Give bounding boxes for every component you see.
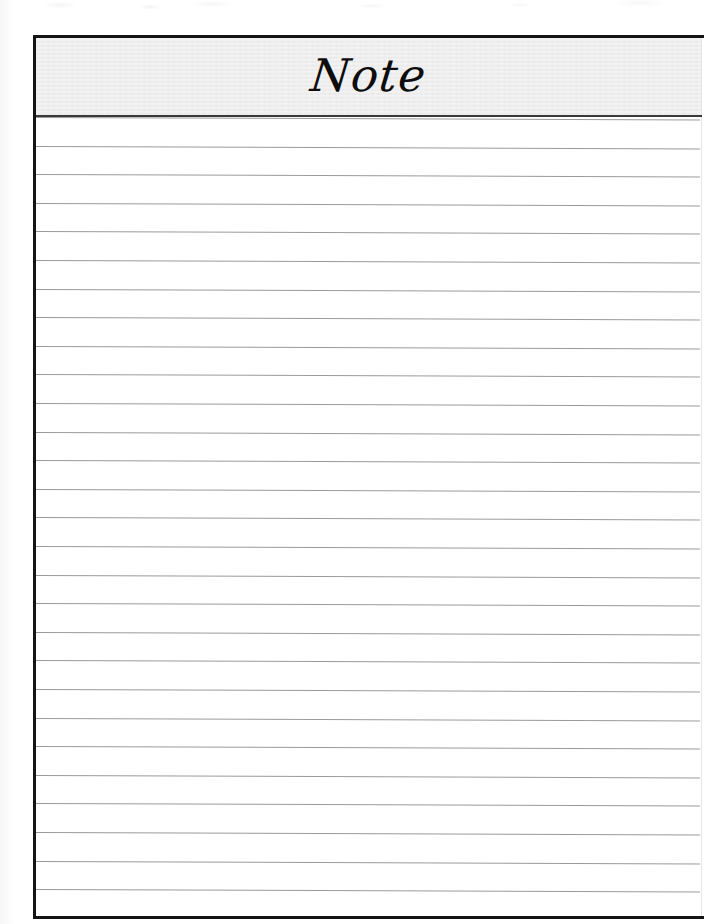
rule-line[interactable] (36, 689, 700, 693)
rule-line[interactable] (36, 861, 700, 865)
rule-line[interactable] (36, 889, 700, 893)
rule-line[interactable] (36, 231, 700, 235)
page-edge-shadow (0, 0, 14, 924)
rule-line[interactable] (36, 403, 700, 407)
rule-line[interactable] (36, 317, 700, 321)
rule-line[interactable] (36, 174, 700, 178)
rule-line[interactable] (36, 746, 700, 750)
scan-artifact-overlay (0, 0, 705, 36)
rule-line[interactable] (36, 374, 700, 378)
rule-line[interactable] (36, 203, 700, 207)
rule-line[interactable] (36, 575, 700, 579)
rule-line[interactable] (36, 260, 700, 264)
rule-line[interactable] (36, 632, 700, 636)
rule-line[interactable] (36, 346, 700, 350)
rule-line[interactable] (36, 289, 700, 293)
rule-line[interactable] (36, 775, 700, 779)
rule-line[interactable] (36, 117, 700, 121)
sheet-bottom-border (33, 916, 704, 919)
rule-line[interactable] (36, 603, 700, 607)
rule-line[interactable] (36, 460, 700, 464)
ruled-lines-area[interactable] (36, 117, 701, 917)
note-page: Note (0, 0, 705, 924)
rule-line[interactable] (36, 517, 700, 521)
rule-line[interactable] (36, 803, 700, 807)
rule-line[interactable] (36, 489, 700, 493)
page-title: Note (309, 53, 429, 98)
sheet-right-border (701, 35, 702, 919)
rule-line[interactable] (36, 546, 700, 550)
note-header-band: Note (36, 38, 701, 116)
rule-line[interactable] (36, 146, 700, 150)
rule-line[interactable] (36, 832, 700, 836)
rule-line[interactable] (36, 432, 700, 436)
note-sheet: Note (33, 35, 701, 919)
rule-line[interactable] (36, 718, 700, 722)
rule-line[interactable] (36, 660, 700, 664)
